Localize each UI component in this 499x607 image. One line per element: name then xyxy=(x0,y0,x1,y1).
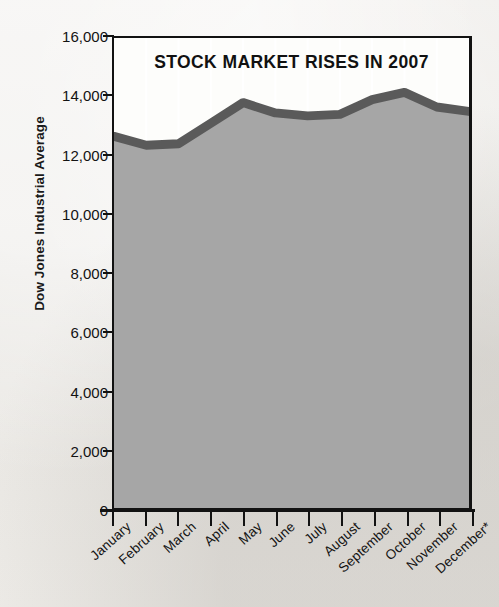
x-axis-tick-label: May xyxy=(236,519,265,548)
x-axis-tick-label: April xyxy=(201,519,232,549)
x-axis-tick-label: June xyxy=(265,519,297,550)
chart-figure: Dow Jones Industrial Average 02,0004,000… xyxy=(0,0,499,607)
x-axis-tick-label: March xyxy=(161,519,200,556)
x-axis-label-group: JanuaryFebruaryMarchAprilMayJuneJulyAugu… xyxy=(0,0,499,607)
